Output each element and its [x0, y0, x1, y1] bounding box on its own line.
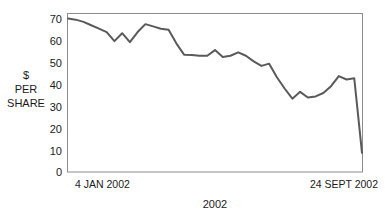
chart-screenshot: 70 60 50 40 30 20 10 0 $ PER SHARE 4 JAN…	[0, 0, 385, 219]
y-tick-30: 30	[50, 101, 62, 113]
share-price-line-chart: 70 60 50 40 30 20 10 0 $ PER SHARE 4 JAN…	[0, 0, 385, 219]
y-tick-70: 70	[50, 13, 62, 25]
y-axis-tick-labels: 70 60 50 40 30 20 10 0	[50, 13, 62, 178]
x-axis-start-date-label: 4 JAN 2002	[75, 178, 130, 190]
x-axis-end-date-label: 24 SEPT 2002	[310, 178, 378, 190]
y-tick-0: 0	[56, 166, 62, 178]
y-tick-10: 10	[50, 145, 62, 157]
y-axis-title: $ PER SHARE	[7, 69, 45, 109]
y-axis-title-line-1: $	[23, 69, 29, 81]
y-axis-title-line-2: PER	[15, 83, 38, 95]
y-axis-title-line-3: SHARE	[7, 97, 45, 109]
y-tick-60: 60	[50, 35, 62, 47]
y-tick-50: 50	[50, 57, 62, 69]
x-axis-title: 2002	[203, 198, 227, 210]
y-tick-20: 20	[50, 123, 62, 135]
y-tick-40: 40	[50, 79, 62, 91]
